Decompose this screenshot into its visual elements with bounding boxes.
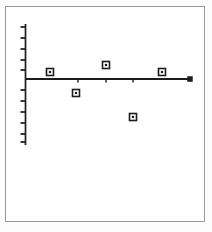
data-point xyxy=(73,90,80,97)
plot-page xyxy=(0,0,212,232)
marker-center xyxy=(49,71,51,73)
marker-center xyxy=(161,71,163,73)
marker-center xyxy=(105,64,107,66)
marker-center xyxy=(132,116,134,118)
data-point xyxy=(47,69,54,76)
data-point xyxy=(103,62,110,69)
scatter-plot xyxy=(0,0,212,232)
marker-center xyxy=(75,92,77,94)
axis-endpoint-marker xyxy=(187,76,193,82)
data-point xyxy=(159,69,166,76)
data-point xyxy=(130,114,137,121)
data-points xyxy=(47,62,166,121)
